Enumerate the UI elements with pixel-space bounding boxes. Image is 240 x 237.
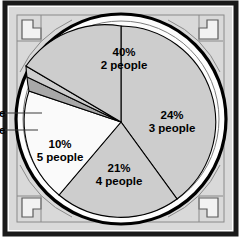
label-percent-10: 10% — [48, 138, 71, 150]
label-percent-24: 24% — [160, 109, 183, 121]
callout-label-upper: e — [0, 107, 5, 119]
label-percent-40: 40% — [112, 46, 135, 58]
callout-label-lower: e — [0, 124, 5, 136]
chart-canvas: 40% 2 people 24% 3 people 21% 4 people 1… — [0, 0, 240, 237]
pie-chart-figure: 40% 2 people 24% 3 people 21% 4 people 1… — [0, 0, 240, 237]
label-people-10: 5 people — [37, 151, 84, 163]
label-people-24: 3 people — [149, 122, 196, 134]
label-people-40: 2 people — [101, 59, 148, 71]
label-percent-21: 21% — [107, 162, 130, 174]
label-people-21: 4 people — [96, 175, 143, 187]
